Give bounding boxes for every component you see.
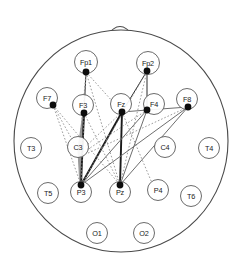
electrode-label-t3: T3	[27, 144, 35, 153]
electrode-label-c4: C4	[161, 143, 170, 152]
electrode-active-dot-f4[interactable]	[144, 107, 151, 114]
electrode-label-t5: T5	[44, 189, 52, 198]
electrode-t5[interactable]: T5	[38, 183, 59, 204]
electrode-active-dot-fp1[interactable]	[83, 69, 90, 76]
electrode-f4[interactable]: F4	[144, 94, 165, 115]
electrode-f3[interactable]: F3	[73, 95, 94, 117]
electrode-f7[interactable]: F7	[37, 88, 58, 109]
electrode-label-t4: T4	[205, 144, 213, 153]
electrode-o2[interactable]: O2	[134, 223, 155, 244]
electrode-label-fz: Fz	[117, 100, 125, 109]
electrode-t3[interactable]: T3	[21, 138, 42, 159]
electrode-active-dot-pz[interactable]	[117, 182, 124, 189]
electrode-active-dot-fp2[interactable]	[144, 68, 151, 75]
electrode-label-pz: Pz	[116, 188, 125, 197]
electrode-c4[interactable]: C4	[155, 137, 176, 158]
electrode-label-f4: F4	[150, 100, 158, 109]
electrode-c3[interactable]: C3	[68, 137, 89, 158]
electrode-t6[interactable]: T6	[181, 186, 202, 207]
electrode-fp2[interactable]: Fp2	[137, 52, 160, 75]
electrode-t4[interactable]: T4	[199, 138, 220, 159]
electrode-active-dot-f3[interactable]	[81, 110, 88, 117]
electrode-active-dot-p3[interactable]	[78, 182, 85, 189]
electrode-label-t6: T6	[187, 192, 195, 201]
electrode-fz[interactable]: Fz	[111, 94, 132, 116]
electrode-active-dot-f7[interactable]	[50, 102, 57, 109]
electrode-label-p4: P4	[154, 186, 163, 195]
eeg-diagram-canvas: Fp1Fp2F7F3FzF4F8T3C3C4T4T5P3PzP4T6O1O2	[0, 0, 241, 274]
electrode-o1[interactable]: O1	[87, 223, 108, 244]
electrode-label-f3: F3	[79, 101, 87, 110]
electrode-active-dot-fz[interactable]	[119, 109, 126, 116]
electrode-label-fp1: Fp1	[80, 58, 92, 67]
electrode-label-f8: F8	[183, 95, 191, 104]
electrode-label-o2: O2	[139, 229, 148, 238]
electrode-label-fp2: Fp2	[142, 59, 154, 68]
electrode-active-dot-f8[interactable]	[185, 104, 192, 111]
electrode-label-c3: C3	[74, 143, 83, 152]
electrode-p4[interactable]: P4	[148, 180, 169, 201]
eeg-electrode-map: Fp1Fp2F7F3FzF4F8T3C3C4T4T5P3PzP4T6O1O2	[0, 0, 241, 274]
electrode-label-f7: F7	[43, 94, 51, 103]
electrode-label-o1: O1	[92, 229, 101, 238]
electrode-pz[interactable]: Pz	[110, 182, 131, 203]
electrode-label-p3: P3	[77, 188, 86, 197]
electrode-p3[interactable]: P3	[71, 182, 92, 203]
electrode-f8[interactable]: F8	[177, 89, 198, 111]
